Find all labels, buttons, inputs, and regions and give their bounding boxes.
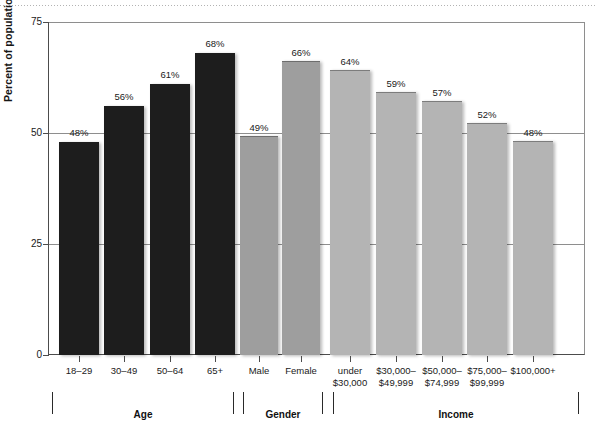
bar-value-label: 52% (462, 109, 512, 120)
bar[interactable] (150, 84, 190, 355)
group-bracket-age: Age (52, 392, 234, 414)
bar-value-label: 48% (508, 127, 558, 138)
x-tick-label-line: 18–29 (66, 365, 92, 376)
bar[interactable] (513, 141, 553, 355)
x-tick-label-line: $99,999 (470, 377, 504, 388)
bar-value-label: 49% (234, 122, 284, 133)
bar[interactable] (104, 106, 144, 355)
bar-value-label: 48% (54, 127, 104, 138)
bar-value-label: 68% (190, 38, 240, 49)
bars-layer: 48%56%61%68%49%66%64%59%57%52%48% (48, 22, 585, 355)
x-tick-mark (487, 356, 488, 362)
x-tick-label-line: 30–49 (111, 365, 137, 376)
x-tick-mark (259, 356, 260, 362)
x-tick-mark (170, 356, 171, 362)
bar[interactable] (195, 53, 235, 355)
x-tick-label-line: 65+ (207, 365, 223, 376)
y-tick-label-25: 25 (18, 238, 42, 249)
bar[interactable] (330, 70, 370, 355)
x-tick-mark (215, 356, 216, 362)
x-tick-label-line: under (338, 365, 362, 376)
y-axis-title: Percent of population reporting daily pr… (2, 0, 14, 102)
y-tick-label-75: 75 (18, 16, 42, 27)
bar-value-label: 61% (145, 69, 195, 80)
bar[interactable] (282, 61, 320, 355)
x-tick-mark (350, 356, 351, 362)
x-tick-mark (442, 356, 443, 362)
x-tick-mark (79, 356, 80, 362)
y-tick-label-50: 50 (18, 127, 42, 138)
group-bracket-income: Income (333, 392, 579, 414)
bar-value-label: 59% (371, 78, 421, 89)
bar-value-label: 56% (99, 91, 149, 102)
group-label: Age (53, 409, 233, 420)
bar-value-label: 64% (325, 56, 375, 67)
group-label: Income (334, 409, 578, 420)
y-tick-mark-0 (43, 355, 49, 356)
x-tick-label: $100,000+ (500, 365, 566, 377)
x-tick-mark (396, 356, 397, 362)
bar[interactable] (467, 123, 507, 355)
y-tick-label-0: 0 (18, 349, 42, 360)
x-tick-label-line: 50–64 (157, 365, 183, 376)
bar-value-label: 66% (276, 47, 326, 58)
x-tick-mark (301, 356, 302, 362)
x-tick-label-line: Female (285, 365, 317, 376)
bar-value-label: 57% (417, 87, 467, 98)
group-label: Gender (244, 409, 322, 420)
x-tick-mark (533, 356, 534, 362)
page-edge-artifact (0, 5, 596, 6)
x-tick-label-line: $100,000+ (510, 365, 555, 376)
bar[interactable] (240, 136, 278, 355)
bar-chart-figure: Percent of population reporting daily pr… (0, 0, 596, 428)
group-bracket-gender: Gender (243, 392, 323, 414)
x-tick-label-line: Male (249, 365, 270, 376)
bar[interactable] (376, 92, 416, 355)
bar[interactable] (59, 142, 99, 355)
x-tick-mark (124, 356, 125, 362)
bar[interactable] (422, 101, 462, 355)
